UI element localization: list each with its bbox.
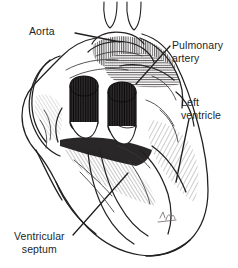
label-pulmonary-artery-line-1: Pulmonary <box>172 39 223 52</box>
vessel-stumps <box>104 2 141 30</box>
label-ventricular-septum-line-1: Ventricular <box>14 230 65 243</box>
label-pulmonary-artery-line-2: artery <box>172 52 223 65</box>
label-left-ventricle-line-2: ventricle <box>181 109 221 122</box>
heart-anatomy-figure: Aorta Pulmonary artery Left ventricle Ve… <box>0 0 238 268</box>
label-pulmonary-artery: Pulmonary artery <box>172 39 223 64</box>
label-left-ventricle: Left ventricle <box>181 96 221 121</box>
label-aorta: Aorta <box>29 25 55 38</box>
label-left-ventricle-line-1: Left <box>181 96 221 109</box>
label-ventricular-septum: Ventricular septum <box>14 230 65 255</box>
label-aorta-line-1: Aorta <box>29 25 55 38</box>
label-ventricular-septum-line-2: septum <box>14 243 65 256</box>
